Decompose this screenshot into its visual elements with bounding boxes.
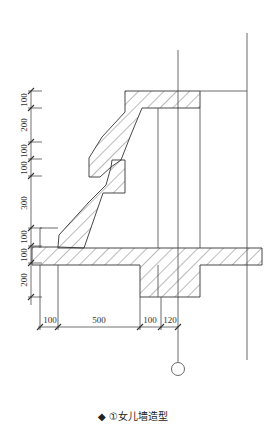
dim-label-h4: 120: [163, 315, 177, 325]
dim-label-v6: 100: [19, 230, 29, 244]
dim-label-v1: 100: [19, 93, 29, 107]
horizontal-dimension-labels: 100 500 100 120: [43, 315, 177, 325]
axis-bubble-icon: [172, 363, 185, 376]
caption-text: ①女儿墙造型: [109, 411, 168, 422]
vertical-dimension-labels: 100 200 100 100 300 100 100 200: [19, 93, 29, 287]
horizontal-dimension-chain: [37, 324, 181, 330]
dim-label-h1: 100: [43, 315, 57, 325]
parapet-section-drawing: 100 200 100 100 300 100 100 200 100 500 …: [0, 0, 266, 429]
figure-caption: ◆ ①女儿墙造型: [0, 408, 266, 423]
dim-label-v2: 200: [19, 118, 29, 132]
dim-label-h3: 100: [143, 315, 157, 325]
parapet-concrete: [32, 91, 262, 297]
dim-label-v7: 100: [19, 248, 29, 262]
diamond-bullet-icon: ◆: [98, 411, 106, 422]
dim-label-v5: 300: [19, 196, 29, 210]
dim-label-h2: 500: [92, 315, 106, 325]
dim-label-v4: 100: [19, 161, 29, 175]
dim-label-v3: 100: [19, 144, 29, 158]
dim-label-v8: 200: [19, 273, 29, 287]
axis-lines: [178, 33, 247, 362]
